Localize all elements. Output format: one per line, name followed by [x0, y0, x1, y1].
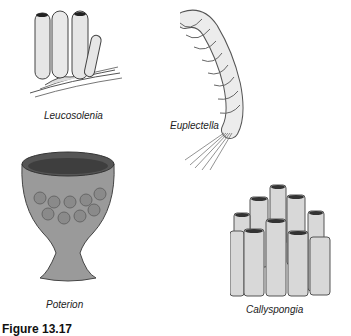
- label-callyspongia: Callyspongia: [246, 304, 303, 315]
- leucosolenia-illustration: [30, 5, 125, 100]
- callyspongia-illustration: [230, 183, 335, 298]
- label-euplectella: Euplectella: [170, 120, 219, 131]
- poterion-illustration: [18, 148, 118, 288]
- label-poterion: Poterion: [46, 299, 83, 310]
- label-leucosolenia: Leucosolenia: [44, 110, 103, 121]
- euplectella-illustration: [180, 5, 260, 170]
- figure-caption: Figure 13.17: [2, 322, 72, 336]
